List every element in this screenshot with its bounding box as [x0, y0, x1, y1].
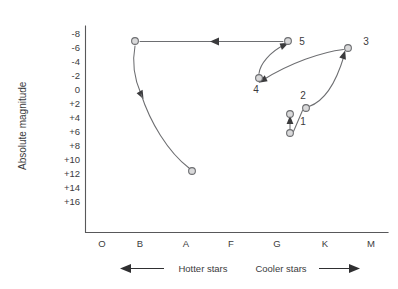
x-tick-label: K: [322, 238, 329, 249]
star-marker-2[interactable]: [303, 105, 310, 112]
cooler-arrow-head: [349, 264, 360, 273]
y-tick-label: -4: [72, 56, 80, 67]
hr-diagram-plot: -8 -6 -4 -2 0 +2 +4 +6 +8 +10 +12 +14 +1…: [0, 0, 398, 289]
star-marker-1[interactable]: [287, 111, 294, 118]
direction-indicators: Hotter stars Cooler stars: [120, 263, 360, 274]
x-tick-label: M: [367, 238, 375, 249]
x-tick-label: B: [137, 238, 143, 249]
y-tick-label: +16: [64, 196, 80, 207]
y-tick-label: +6: [69, 126, 80, 137]
star-marker-3[interactable]: [345, 45, 352, 52]
y-tick-label: +2: [69, 98, 80, 109]
star-markers: [132, 38, 352, 175]
point-labels: 1 2 3 4 5: [253, 36, 369, 127]
track-to-white-dwarf: [141, 94, 189, 168]
x-tick-label: A: [183, 238, 190, 249]
arrowhead-into-3: [339, 51, 346, 60]
x-tick-label: O: [98, 238, 105, 249]
point-label-5: 5: [299, 36, 305, 47]
y-tick-label: +12: [64, 168, 80, 179]
star-marker-5[interactable]: [285, 38, 292, 45]
cooler-stars-label: Cooler stars: [255, 263, 306, 274]
hr-diagram-figure: -8 -6 -4 -2 0 +2 +4 +6 +8 +10 +12 +14 +1…: [0, 0, 398, 289]
y-tick-label: +10: [64, 154, 80, 165]
point-label-2: 2: [300, 90, 306, 101]
point-label-1: 1: [300, 116, 306, 127]
x-tick-label: F: [228, 238, 234, 249]
y-tick-label: -8: [72, 28, 80, 39]
hotter-arrow-head: [120, 264, 131, 273]
y-tick-label: 0: [75, 84, 80, 95]
y-tick-label: +4: [69, 112, 80, 123]
track-3-to-4: [263, 50, 344, 81]
y-tick-label: -2: [72, 70, 80, 81]
x-tick-label: G: [273, 238, 280, 249]
y-tick-label: +14: [64, 182, 80, 193]
y-tick-label: +8: [69, 140, 80, 151]
track-b-giant-descend: [134, 46, 141, 94]
y-tick-labels: -8 -6 -4 -2 0 +2 +4 +6 +8 +10 +12 +14 +1…: [64, 28, 80, 207]
track-2-to-3: [309, 56, 344, 107]
y-tick-label: -6: [72, 42, 80, 53]
arrowhead-leftward: [210, 38, 219, 46]
y-axis-title: Absolute magnitude: [17, 81, 28, 170]
star-marker-4[interactable]: [256, 75, 263, 82]
hotter-stars-label: Hotter stars: [178, 263, 227, 274]
point-label-3: 3: [363, 36, 369, 47]
star-marker-b-giant[interactable]: [132, 38, 139, 45]
star-marker-white-dwarf[interactable]: [189, 168, 196, 175]
evolution-tracks: [134, 38, 346, 168]
track-4-to-5: [259, 45, 284, 74]
x-tick-labels: O B A F G K M: [98, 238, 375, 249]
star-marker[interactable]: [287, 130, 294, 137]
point-label-4: 4: [253, 84, 259, 95]
